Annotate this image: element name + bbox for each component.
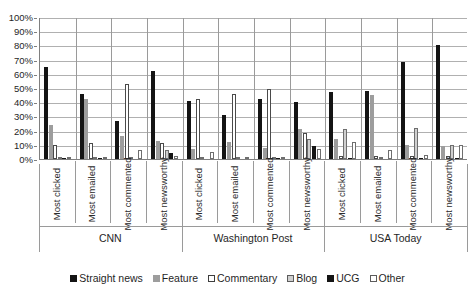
y-axis-tick-label: 30% bbox=[0, 112, 33, 122]
bar bbox=[258, 99, 262, 159]
bar bbox=[339, 156, 343, 159]
bar bbox=[98, 158, 102, 159]
bar-cluster bbox=[218, 18, 254, 159]
x-axis-tick-mark bbox=[431, 161, 432, 223]
x-axis-tick-label: Most emailed bbox=[75, 161, 111, 225]
y-axis-tick-label: 80% bbox=[0, 41, 33, 51]
bar bbox=[455, 158, 459, 159]
bar bbox=[93, 157, 97, 159]
x-axis-tick-mark bbox=[75, 161, 76, 223]
bar-group bbox=[218, 18, 254, 159]
bar bbox=[401, 62, 405, 159]
y-axis-tick-mark bbox=[34, 61, 37, 62]
x-axis-tick-label: Most commented bbox=[396, 161, 432, 225]
bar bbox=[196, 99, 200, 159]
legend-item: Other bbox=[370, 273, 405, 284]
bar-cluster bbox=[361, 18, 397, 159]
x-axis-tick-label: Most newsworthy bbox=[146, 161, 182, 225]
bar bbox=[156, 141, 160, 159]
bar-chart: 100%90%80%70%60%50%40%30%20%10%0% Most c… bbox=[0, 0, 475, 295]
category-separator bbox=[432, 18, 433, 159]
bar-cluster bbox=[432, 18, 468, 159]
bar bbox=[151, 71, 155, 159]
x-axis-tick-label: Most emailed bbox=[360, 161, 396, 225]
bar bbox=[89, 143, 93, 159]
group-label: CNN bbox=[39, 232, 182, 244]
x-axis-labels: Most clickedMost emailedMost commentedMo… bbox=[39, 161, 467, 227]
bar bbox=[227, 142, 231, 159]
bar bbox=[298, 129, 302, 159]
bar bbox=[138, 150, 142, 159]
bar bbox=[343, 129, 347, 159]
category-separator bbox=[397, 18, 398, 159]
bar bbox=[414, 128, 418, 159]
plot-area bbox=[39, 18, 467, 160]
legend-swatch bbox=[287, 275, 294, 282]
legend-item: Blog bbox=[287, 273, 317, 284]
bar bbox=[169, 153, 173, 159]
bar-cluster bbox=[76, 18, 112, 159]
bar bbox=[67, 157, 71, 159]
x-axis-tick-label: Most clicked bbox=[39, 161, 75, 225]
bar bbox=[62, 158, 66, 159]
legend: Straight newsFeatureCommentaryBlogUCGOth… bbox=[0, 268, 475, 288]
x-axis-tick-label: Most clicked bbox=[324, 161, 360, 225]
y-axis-tick-label: 50% bbox=[0, 84, 33, 94]
y-axis-tick-mark bbox=[34, 75, 37, 76]
legend-swatch bbox=[208, 275, 215, 282]
x-axis-tick-mark bbox=[146, 161, 147, 223]
y-axis-tick-mark bbox=[34, 117, 37, 118]
bar bbox=[103, 157, 107, 159]
bar-group bbox=[361, 18, 397, 159]
bar bbox=[49, 125, 53, 159]
bar-group bbox=[111, 18, 147, 159]
group-separator bbox=[182, 164, 183, 252]
bar-group bbox=[325, 18, 361, 159]
category-separator bbox=[254, 18, 255, 159]
y-axis-tick-mark bbox=[34, 18, 37, 19]
x-axis-tick-mark bbox=[396, 161, 397, 223]
bar-group bbox=[183, 18, 219, 159]
x-axis-tick-label: Most commented bbox=[110, 161, 146, 225]
bar-group bbox=[147, 18, 183, 159]
category-separator bbox=[290, 18, 291, 159]
bar bbox=[276, 158, 280, 159]
bar bbox=[174, 156, 178, 159]
bar bbox=[58, 157, 62, 159]
x-axis-tick-mark bbox=[360, 161, 361, 223]
bar bbox=[191, 149, 195, 159]
bar bbox=[84, 99, 88, 159]
legend-label: Blog bbox=[296, 273, 317, 284]
bar bbox=[200, 157, 204, 159]
y-axis-tick-mark bbox=[34, 146, 37, 147]
bar bbox=[125, 84, 129, 159]
bar-cluster bbox=[397, 18, 433, 159]
legend-label: Commentary bbox=[217, 273, 277, 284]
bar-cluster bbox=[254, 18, 290, 159]
y-axis-tick-mark bbox=[34, 89, 37, 90]
bar bbox=[307, 139, 311, 159]
category-separator bbox=[361, 18, 362, 159]
bar bbox=[419, 158, 423, 159]
x-axis-tick-mark bbox=[217, 161, 218, 223]
legend-swatch bbox=[370, 275, 377, 282]
legend-swatch bbox=[153, 275, 160, 282]
bar bbox=[245, 157, 249, 159]
y-axis-tick-label: 0% bbox=[0, 155, 33, 165]
bar-group bbox=[254, 18, 290, 159]
bar bbox=[365, 91, 369, 159]
bar-cluster bbox=[183, 18, 219, 159]
y-axis-tick-mark bbox=[34, 160, 37, 161]
y-axis-tick-label: 90% bbox=[0, 27, 33, 37]
group-label: Washington Post bbox=[182, 232, 325, 244]
group-band-line bbox=[39, 226, 467, 227]
bar-cluster bbox=[40, 18, 76, 159]
y-axis-tick-label: 20% bbox=[0, 127, 33, 137]
legend-swatch bbox=[70, 275, 77, 282]
group-separator bbox=[467, 164, 468, 252]
bar-group bbox=[397, 18, 433, 159]
bar bbox=[294, 102, 298, 159]
bar bbox=[187, 101, 191, 159]
y-axis-tick-label: 40% bbox=[0, 98, 33, 108]
y-axis-tick-label: 10% bbox=[0, 141, 33, 151]
